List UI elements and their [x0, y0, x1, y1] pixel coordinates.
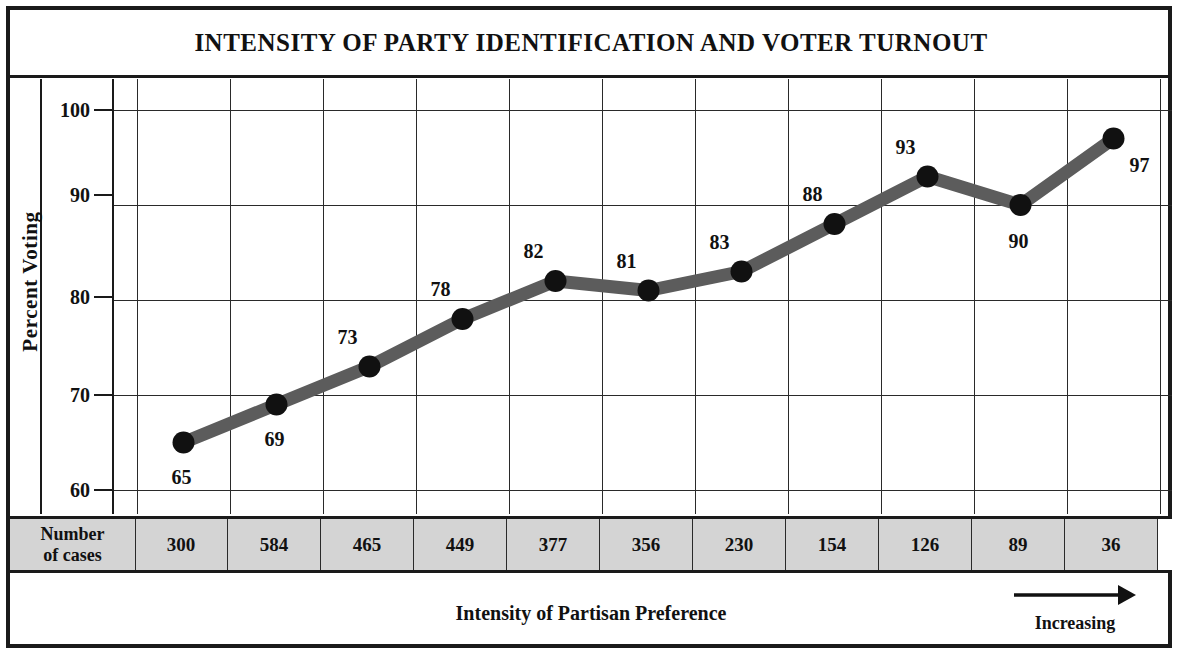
data-point-marker: [266, 394, 288, 416]
y-tick-label-100: 100: [60, 99, 90, 122]
cases-cell: 126: [879, 519, 972, 570]
cases-row-empty-tail: [1158, 519, 1172, 570]
cases-cell: 36: [1065, 519, 1158, 570]
data-point-label: 83: [710, 230, 730, 253]
page-title: INTENSITY OF PARTY IDENTIFICATION AND VO…: [194, 29, 987, 57]
x-axis-caption-band: Intensity of Partisan Preference Increas…: [10, 576, 1172, 644]
data-point-label: 73: [338, 325, 358, 348]
data-point-marker: [917, 166, 939, 188]
data-point-label: 82: [524, 240, 544, 263]
data-point-label: 97: [1130, 153, 1150, 176]
y-tick-mark-90: [94, 194, 112, 196]
number-of-cases-header: Number of cases: [10, 519, 136, 570]
data-point-marker: [638, 280, 660, 302]
y-tick-label-70: 70: [70, 384, 90, 407]
y-tick-mark-100: [94, 109, 112, 111]
y-axis-title-strip: Percent Voting: [10, 79, 42, 514]
chart-figure: INTENSITY OF PARTY IDENTIFICATION AND VO…: [0, 0, 1188, 657]
x-axis-caption: Intensity of Partisan Preference: [10, 602, 1172, 625]
data-point-label: 88: [803, 183, 823, 206]
title-band: INTENSITY OF PARTY IDENTIFICATION AND VO…: [10, 10, 1172, 78]
data-point-label: 69: [265, 427, 285, 450]
cases-cell: 300: [135, 519, 228, 570]
y-tick-label-90: 90: [70, 184, 90, 207]
data-point-marker: [1103, 128, 1125, 150]
cases-header-line2: of cases: [43, 545, 101, 566]
y-axis-title: Percent Voting: [18, 82, 43, 482]
cases-cell: 465: [321, 519, 414, 570]
y-tick-label-60: 60: [70, 479, 90, 502]
data-point-marker: [1010, 194, 1032, 216]
y-tick-mark-60: [94, 489, 112, 491]
y-tick-mark-80: [94, 296, 112, 298]
cases-cell: 584: [228, 519, 321, 570]
y-axis-tick-column: 100 90 80 70 60: [44, 79, 112, 514]
data-point-marker: [359, 356, 381, 378]
data-point-marker: [452, 308, 474, 330]
data-point-marker: [824, 213, 846, 235]
right-arrow-icon: [1010, 582, 1140, 608]
data-point-label: 90: [1009, 230, 1029, 253]
cases-header-line1: Number: [41, 524, 105, 545]
plot-area: 6569737882818388939097: [112, 79, 1172, 514]
cases-cell: 230: [693, 519, 786, 570]
cases-cell: 377: [507, 519, 600, 570]
increasing-annotation: Increasing: [1000, 582, 1150, 634]
cases-cell: 449: [414, 519, 507, 570]
data-point-marker: [173, 432, 195, 454]
cases-cell: 154: [786, 519, 879, 570]
y-tick-label-80: 80: [70, 286, 90, 309]
data-point-label: 93: [896, 135, 916, 158]
cases-cell: 89: [972, 519, 1065, 570]
data-point-marker: [731, 261, 753, 283]
data-point-label: 78: [431, 278, 451, 301]
increasing-label: Increasing: [1000, 613, 1150, 634]
number-of-cases-row: Number of cases 300584465449377356230154…: [10, 516, 1172, 573]
cases-cell: 356: [600, 519, 693, 570]
y-tick-mark-70: [94, 394, 112, 396]
data-point-marker: [545, 270, 567, 292]
data-point-label: 65: [172, 465, 192, 488]
data-point-label: 81: [617, 249, 637, 272]
